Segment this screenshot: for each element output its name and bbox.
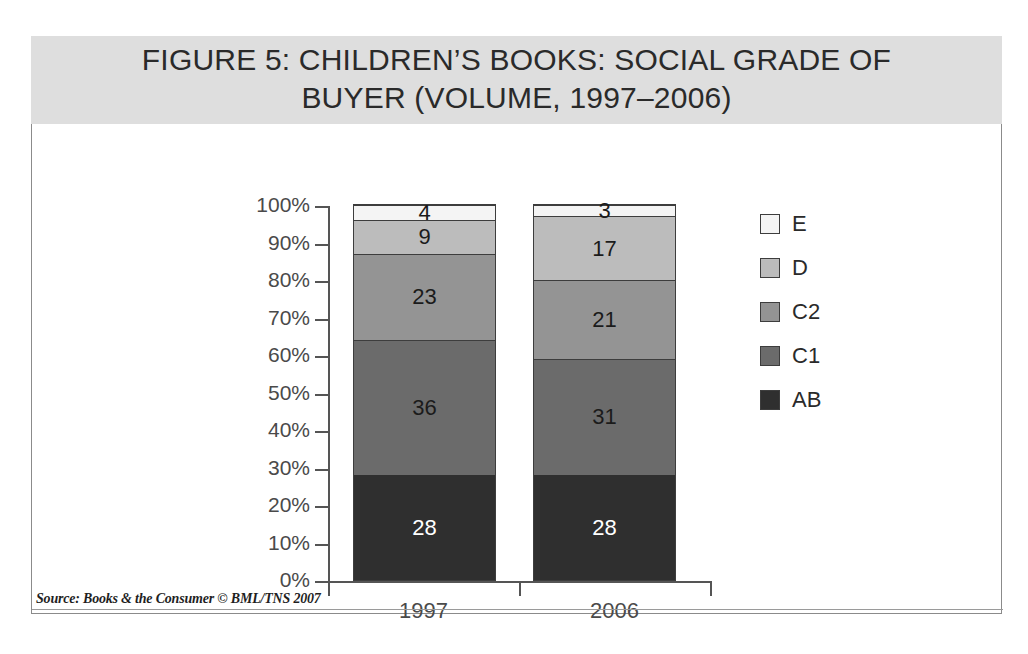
legend-item-ab[interactable]: AB [760, 378, 821, 422]
y-axis-tick-mark [315, 244, 328, 246]
bar-value-label: 36 [412, 397, 436, 419]
bar-1997[interactable]: 28362394 [353, 204, 496, 581]
bar-segment-c1[interactable]: 36 [354, 340, 495, 475]
figure-container: FIGURE 5: CHILDREN’S BOOKS: SOCIAL GRADE… [31, 36, 1002, 614]
y-axis-tick-mark [315, 319, 328, 321]
legend-label: AB [792, 387, 821, 413]
legend-label: D [792, 255, 808, 281]
y-axis-tick-mark [315, 356, 328, 358]
legend-swatch-icon [760, 390, 780, 410]
y-axis-tick-label: 100% [256, 193, 310, 217]
y-axis-tick-mark [315, 544, 328, 546]
bar-value-label: 23 [412, 286, 436, 308]
legend-item-c1[interactable]: C1 [760, 334, 821, 378]
legend-swatch-icon [760, 214, 780, 234]
legend-item-e[interactable]: E [760, 202, 821, 246]
y-axis-tick-mark [315, 281, 328, 283]
page-title: FIGURE 5: CHILDREN’S BOOKS: SOCIAL GRADE… [49, 41, 984, 117]
bar-segment-c1[interactable]: 31 [534, 359, 675, 475]
legend-item-d[interactable]: D [760, 246, 821, 290]
bar-segment-c2[interactable]: 23 [354, 254, 495, 340]
y-axis-tick-label: 80% [268, 268, 310, 292]
bar-segment-d[interactable]: 9 [354, 220, 495, 254]
y-axis-tick-mark [315, 581, 328, 583]
y-axis-tick-label: 70% [268, 306, 310, 330]
y-axis-tick-label: 40% [268, 418, 310, 442]
bar-segment-d[interactable]: 17 [534, 216, 675, 280]
legend-label: C1 [792, 343, 820, 369]
y-axis-tick-label: 90% [268, 231, 310, 255]
y-axis-tick-label: 60% [268, 343, 310, 367]
plot-area: 0%10%20%30%40%50%60%70%80%90%100% 283623… [328, 206, 710, 581]
bar-segment-e[interactable]: 4 [354, 205, 495, 220]
bar-value-label: 28 [412, 517, 436, 539]
chart-legend: EDC2C1AB [760, 202, 821, 422]
bar-segment-c2[interactable]: 21 [534, 280, 675, 359]
chart-body: 0%10%20%30%40%50%60%70%80%90%100% 283623… [31, 124, 1002, 614]
legend-item-c2[interactable]: C2 [760, 290, 821, 334]
legend-swatch-icon [760, 258, 780, 278]
y-axis-tick-mark [315, 394, 328, 396]
y-axis-tick-mark [315, 506, 328, 508]
legend-label: C2 [792, 299, 820, 325]
bar-value-label: 17 [592, 238, 616, 260]
legend-swatch-icon [760, 346, 780, 366]
bar-value-label: 31 [592, 406, 616, 428]
legend-label: E [792, 211, 807, 237]
y-axis-tick-mark [315, 431, 328, 433]
bar-segment-e[interactable]: 3 [534, 205, 675, 216]
y-axis-tick-label: 10% [268, 531, 310, 555]
bar-value-label: 9 [418, 226, 430, 248]
bar-segment-ab[interactable]: 28 [534, 475, 675, 580]
figure-title-band: FIGURE 5: CHILDREN’S BOOKS: SOCIAL GRADE… [31, 36, 1002, 124]
y-axis-tick-label: 20% [268, 493, 310, 517]
bar-segment-ab[interactable]: 28 [354, 475, 495, 580]
source-note-text: Source: Books & the Consumer © BML/TNS 2… [32, 591, 321, 606]
legend-swatch-icon [760, 302, 780, 322]
y-axis-tick-mark [315, 206, 328, 208]
bar-value-label: 28 [592, 517, 616, 539]
bar-value-label: 21 [592, 309, 616, 331]
y-axis-tick-label: 50% [268, 381, 310, 405]
y-axis-line [328, 206, 330, 581]
bar-2006[interactable]: 283121173 [533, 204, 676, 581]
y-axis-tick-label: 30% [268, 456, 310, 480]
y-axis-tick-mark [315, 469, 328, 471]
source-note: Source: Books & the Consumer © BML/TNS 2… [32, 589, 1003, 610]
